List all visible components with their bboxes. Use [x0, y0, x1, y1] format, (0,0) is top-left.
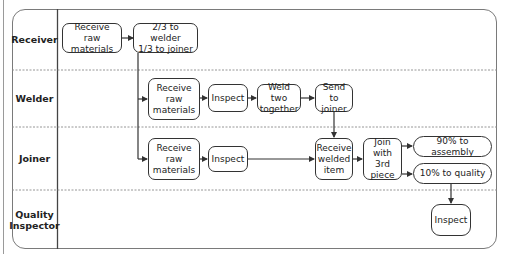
node-text: Send to — [318, 82, 350, 104]
lane-label-text: Quality — [15, 209, 54, 220]
node-text: 2/3 to welder — [136, 22, 195, 44]
node-receiver-split: 2/3 to welder 1/3 to joiner — [133, 23, 198, 53]
node-text: joiner — [321, 104, 346, 115]
node-text: Join — [374, 137, 390, 148]
node-text: raw — [166, 94, 183, 105]
lane-label-joiner: Joiner — [12, 127, 57, 190]
node-text: Receive raw — [65, 22, 119, 44]
node-text: welded — [318, 154, 350, 165]
node-quality-inspect: Inspect — [431, 204, 471, 236]
node-welder-send-to-joiner: Send to joiner — [315, 84, 353, 112]
node-joiner-receive-raw-materials: Receive raw materials — [148, 138, 200, 180]
node-text: Inspect — [212, 93, 245, 104]
node-joiner-join-with-3rd-piece: Join with 3rd piece — [363, 138, 402, 180]
node-joiner-10-to-quality: 10% to quality — [413, 163, 492, 184]
node-welder-receive-raw-materials: Receive raw materials — [148, 78, 200, 120]
node-text: with 3rd — [366, 148, 399, 170]
node-text: Inspect — [212, 154, 245, 165]
lane-label-welder: Welder — [12, 70, 57, 127]
node-welder-inspect: Inspect — [208, 84, 248, 112]
lane-label-text: Joiner — [19, 153, 50, 164]
node-text: Receive — [156, 143, 191, 154]
node-text: materials — [71, 44, 113, 55]
node-text: materials — [153, 105, 195, 116]
node-joiner-90-to-assembly: 90% to assembly — [413, 136, 492, 157]
lane-label-text: Receiver — [11, 34, 57, 45]
node-welder-weld-two-together: Weld two together — [257, 84, 301, 112]
node-text: item — [324, 165, 344, 176]
node-joiner-inspect: Inspect — [208, 146, 248, 172]
node-text: Weld two — [260, 82, 298, 104]
node-text: 90% to assembly — [416, 136, 489, 158]
lane-label-text: Inspector — [9, 220, 60, 231]
node-text: 1/3 to joiner — [138, 44, 193, 55]
lane-label-quality-inspector: Quality Inspector — [12, 190, 57, 249]
node-text: Inspect — [435, 215, 468, 226]
node-text: Receive — [316, 143, 351, 154]
node-text: raw — [166, 154, 183, 165]
node-joiner-receive-welded-item: Receive welded item — [315, 138, 353, 180]
node-text: 10% to quality — [420, 168, 486, 179]
lane-label-receiver: Receiver — [12, 9, 57, 70]
node-text: materials — [153, 165, 195, 176]
lane-label-text: Welder — [16, 93, 54, 104]
node-text: together — [260, 104, 299, 115]
node-text: Receive — [156, 83, 191, 94]
swimlane-diagram: Receiver Welder Joiner Quality Inspector… — [0, 0, 506, 254]
node-receiver-receive-raw-materials: Receive raw materials — [62, 23, 122, 53]
node-text: piece — [370, 170, 394, 181]
